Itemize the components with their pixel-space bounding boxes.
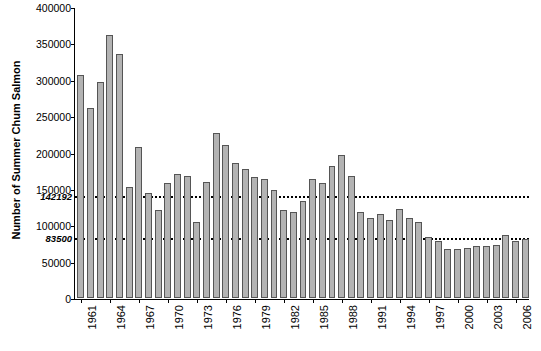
bar: [97, 82, 104, 298]
bar: [174, 174, 181, 298]
x-tick-label: 2003: [492, 305, 504, 329]
bar: [386, 220, 393, 298]
bar: [338, 155, 345, 298]
x-tick-mark: [458, 299, 459, 303]
x-tick-label: 2006: [521, 305, 533, 329]
x-tick-mark: [371, 299, 372, 303]
bar: [164, 183, 171, 298]
y-tick-label: 350000: [36, 38, 71, 50]
x-tick-label: 1970: [173, 305, 185, 329]
y-tick-label: 250000: [36, 111, 71, 123]
y-tick-label: 400000: [36, 2, 71, 14]
x-tick-mark: [139, 299, 140, 303]
x-tick-mark: [197, 299, 198, 303]
bar: [357, 212, 364, 298]
plot-area: 0500001000001500002000002500003000003500…: [74, 8, 529, 300]
bar: [116, 54, 123, 298]
bar: [319, 183, 326, 298]
bar: [135, 147, 142, 298]
x-tick-label: 1997: [434, 305, 446, 329]
reference-line-label: 83500: [46, 233, 72, 244]
y-tick-mark: [71, 8, 75, 9]
bar: [406, 218, 413, 298]
bar: [473, 246, 480, 298]
bar: [483, 246, 490, 298]
x-tick-mark: [313, 299, 314, 303]
y-tick-mark: [71, 81, 75, 82]
bar: [493, 245, 500, 298]
bar: [251, 177, 258, 298]
bar: [348, 176, 355, 298]
bar: [502, 235, 509, 298]
bar: [213, 133, 220, 298]
bar: [271, 190, 278, 298]
bar: [454, 249, 461, 298]
bar: [87, 108, 94, 298]
x-tick-mark: [81, 299, 82, 303]
x-tick-label: 2000: [463, 305, 475, 329]
x-tick-mark: [168, 299, 169, 303]
x-tick-mark: [400, 299, 401, 303]
bar: [261, 179, 268, 298]
bar: [106, 35, 113, 298]
bar: [193, 222, 200, 298]
bar: [367, 218, 374, 298]
x-tick-label: 1967: [144, 305, 156, 329]
bar: [329, 166, 336, 298]
y-tick-label: 50000: [42, 257, 71, 269]
x-tick-mark: [516, 299, 517, 303]
x-tick-label: 1964: [115, 305, 127, 329]
bar: [300, 201, 307, 298]
y-tick-mark: [71, 154, 75, 155]
x-tick-mark: [255, 299, 256, 303]
y-tick-label: 200000: [36, 148, 71, 160]
bar: [232, 163, 239, 298]
x-tick-mark: [284, 299, 285, 303]
x-tick-label: 1961: [86, 305, 98, 329]
x-tick-label: 1973: [202, 305, 214, 329]
bar: [290, 212, 297, 298]
chart-container: Number of Summer Chum Salmon 05000010000…: [0, 0, 541, 351]
y-tick-label: 100000: [36, 220, 71, 232]
x-tick-label: 1976: [231, 305, 243, 329]
x-tick-label: 1994: [405, 305, 417, 329]
y-tick-mark: [71, 299, 75, 300]
bar: [242, 169, 249, 298]
y-axis-title: Number of Summer Chum Salmon: [6, 0, 26, 300]
bar: [184, 176, 191, 298]
bar: [435, 241, 442, 298]
bar: [464, 248, 471, 298]
y-tick-mark: [71, 117, 75, 118]
bar: [126, 187, 133, 298]
x-tick-mark: [226, 299, 227, 303]
bar: [77, 75, 84, 298]
bar: [222, 145, 229, 299]
bar: [512, 241, 519, 298]
x-tick-label: 1988: [347, 305, 359, 329]
x-tick-label: 1991: [376, 305, 388, 329]
x-tick-mark: [110, 299, 111, 303]
bar: [145, 193, 152, 298]
bar: [415, 222, 422, 298]
bar: [425, 237, 432, 298]
bar-series: [76, 8, 529, 298]
bar: [203, 182, 210, 298]
bar: [522, 239, 529, 298]
x-tick-label: 1979: [260, 305, 272, 329]
x-tick-mark: [429, 299, 430, 303]
y-tick-mark: [71, 263, 75, 264]
bar: [309, 179, 316, 298]
x-tick-label: 1985: [318, 305, 330, 329]
x-tick-mark: [342, 299, 343, 303]
bar: [280, 210, 287, 298]
y-tick-mark: [71, 226, 75, 227]
plot-wrapper: 0500001000001500002000002500003000003500…: [74, 8, 529, 300]
bar: [155, 210, 162, 298]
y-tick-label: 300000: [36, 75, 71, 87]
x-tick-label: 1982: [289, 305, 301, 329]
bar: [396, 209, 403, 298]
x-tick-mark: [487, 299, 488, 303]
bar: [444, 249, 451, 298]
reference-line-label: 142192: [40, 190, 72, 201]
y-tick-mark: [71, 44, 75, 45]
